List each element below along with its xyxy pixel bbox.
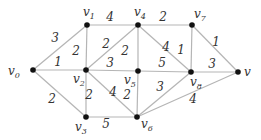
edge-v2-v5 bbox=[86, 70, 138, 71]
edge-weight-v5-v8: 5 bbox=[158, 56, 166, 70]
node-label-subscript: 6 bbox=[148, 124, 153, 133]
edge-v6-v bbox=[137, 72, 238, 117]
edge-weight-v7-v: 1 bbox=[212, 35, 220, 49]
edge-weight-v7-v8: 1 bbox=[177, 43, 185, 57]
node-label-subscript: 1 bbox=[90, 12, 95, 21]
node-v8 bbox=[188, 69, 194, 75]
edge-weight-v4-v7: 2 bbox=[158, 10, 167, 24]
edge-weight-v1-v2: 2 bbox=[71, 44, 80, 58]
node-label-subscript: 4 bbox=[140, 12, 146, 21]
edge-v5-v8 bbox=[138, 71, 191, 72]
node-v7 bbox=[189, 22, 195, 28]
node-label-v6: v6 bbox=[141, 117, 153, 133]
node-label-subscript: 0 bbox=[15, 71, 20, 80]
edge-weight-v2-v4: 2 bbox=[101, 37, 110, 51]
node-label-v1: v1 bbox=[83, 5, 95, 21]
edge-weight-v4-v5: 2 bbox=[120, 44, 129, 58]
edge-weight-v2-v5: 3 bbox=[106, 56, 114, 70]
edge-v1-v2 bbox=[86, 25, 87, 70]
edge-weight-v8-v: 3 bbox=[208, 57, 216, 71]
node-v0 bbox=[30, 67, 36, 73]
node-label-v7: v7 bbox=[194, 7, 207, 23]
node-v4 bbox=[135, 22, 141, 28]
edge-weight-v2-v3: 2 bbox=[84, 88, 93, 102]
node-label-subscript: 8 bbox=[197, 82, 202, 91]
node-label-subscript: 7 bbox=[201, 14, 207, 23]
edge-v7-v8 bbox=[191, 25, 192, 72]
edge-weight-v0-v1: 3 bbox=[51, 31, 59, 45]
graph-diagram: 31242234252245211334 v0v1v2v3v4v5v6v7v8v bbox=[0, 0, 261, 140]
node-label-subscript: 5 bbox=[131, 80, 136, 89]
edge-weight-v0-v2: 1 bbox=[54, 55, 62, 69]
node-label-subscript: 3 bbox=[82, 127, 87, 136]
edge-weight-v0-v3: 2 bbox=[47, 92, 56, 106]
node-label-base: v bbox=[244, 65, 251, 79]
node-label-v3: v3 bbox=[75, 120, 87, 136]
edge-v5-v6 bbox=[137, 71, 138, 117]
node-v5 bbox=[135, 68, 141, 74]
node-label-v4: v4 bbox=[134, 5, 146, 21]
edge-weight-v2-v6: 4 bbox=[108, 85, 117, 99]
node-v6 bbox=[134, 114, 140, 120]
edge-v6-v8 bbox=[137, 72, 191, 117]
node-label-v2: v2 bbox=[73, 72, 85, 88]
edge-weight-v5-v6: 2 bbox=[122, 88, 131, 102]
edge-weight-v4-v8: 4 bbox=[161, 40, 170, 54]
nodes-layer bbox=[30, 22, 241, 120]
node-label-v: v bbox=[244, 65, 251, 79]
node-v1 bbox=[84, 22, 90, 28]
edge-weight-v1-v4: 4 bbox=[105, 10, 114, 24]
node-label-v5: v5 bbox=[124, 73, 136, 89]
node-label-v0: v0 bbox=[8, 64, 20, 80]
node-v3 bbox=[83, 114, 89, 120]
edge-weight-v6-v: 4 bbox=[188, 92, 197, 106]
edge-weight-v6-v8: 3 bbox=[156, 80, 164, 94]
edge-weight-v3-v6: 5 bbox=[102, 117, 110, 131]
node-v2 bbox=[83, 67, 89, 73]
node-label-subscript: 2 bbox=[79, 79, 85, 88]
node-label-v8: v8 bbox=[190, 75, 202, 91]
node-v bbox=[235, 69, 241, 75]
